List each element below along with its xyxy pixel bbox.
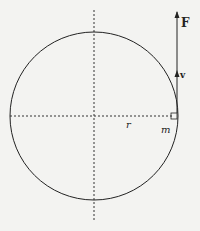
radius-label: r: [126, 119, 132, 130]
velocity-label: v: [179, 70, 186, 80]
force-label: F: [181, 16, 190, 30]
circular-motion-diagram: F v r m: [0, 0, 200, 231]
mass-label: m: [161, 124, 170, 135]
velocity-arrowhead-icon: [175, 70, 180, 77]
force-arrowhead-icon: [175, 11, 180, 18]
